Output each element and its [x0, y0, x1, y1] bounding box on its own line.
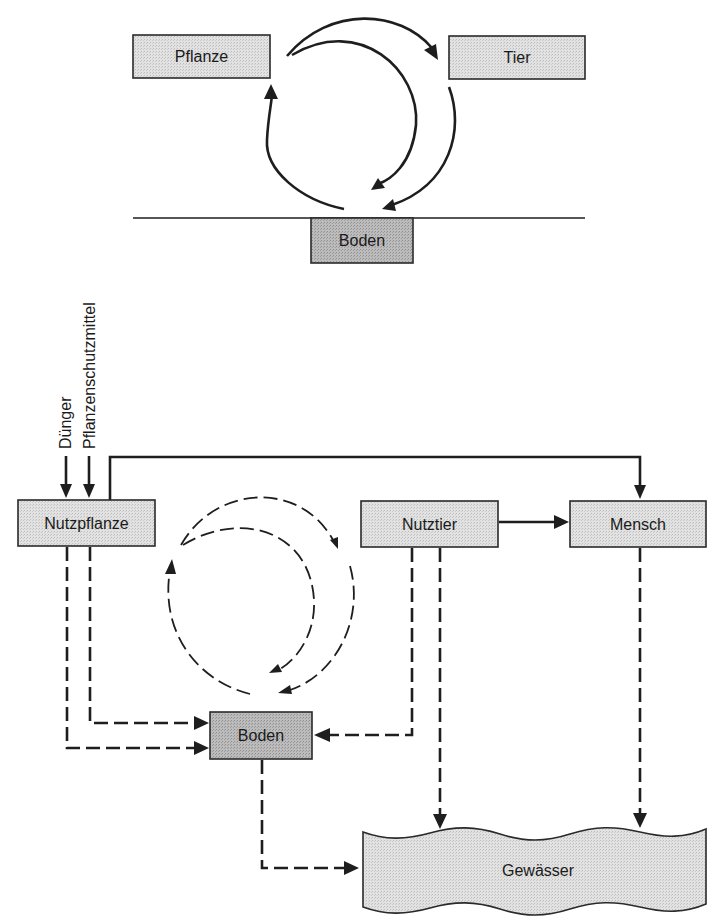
- arrow-soil-to-plant: [267, 94, 344, 209]
- water-label: Gewässer: [502, 862, 575, 879]
- dashed-arrow-soil-to-water: [262, 760, 346, 868]
- dashed-arrow-soil-to-crop: [168, 570, 250, 694]
- arrowhead-icon: [433, 814, 447, 829]
- top-cycle: Pflanze Tier Boden: [133, 19, 585, 263]
- dashed-arrow-crop-to-soil: [183, 528, 314, 670]
- arrowhead-icon: [330, 537, 338, 549]
- arrow-plant-to-animal: [287, 19, 432, 56]
- arrowhead-icon: [194, 716, 209, 730]
- arrowhead-icon: [554, 515, 569, 529]
- fertilizer-label: Dünger: [57, 396, 74, 449]
- dashed-arrow-crop-to-soil-1: [90, 547, 196, 723]
- arrowhead-icon: [382, 199, 396, 211]
- arrowhead-icon: [194, 741, 209, 755]
- arrowhead-icon: [278, 685, 292, 694]
- arrowhead-icon: [264, 84, 278, 99]
- arrowhead-icon: [634, 485, 646, 499]
- dashed-arrow-crop-to-livestock: [181, 497, 333, 545]
- dashed-arrow-crop-to-soil-2: [67, 547, 196, 748]
- soil-label: Boden: [339, 232, 385, 249]
- human-label: Mensch: [610, 516, 666, 533]
- arrow-animal-to-soil: [392, 87, 455, 205]
- arrowhead-icon: [269, 664, 282, 673]
- dashed-arrow-livestock-to-soil-direct: [328, 548, 412, 735]
- pesticide-label: Pflanzenschutzmittel: [81, 302, 98, 449]
- crop-label: Nutzpflanze: [44, 515, 129, 532]
- arrow-crop-to-human: [110, 457, 640, 500]
- arrowhead-icon: [344, 861, 359, 875]
- arrowhead-icon: [83, 484, 95, 498]
- plant-label: Pflanze: [175, 48, 228, 65]
- arrowhead-icon: [314, 728, 330, 742]
- arrowhead-icon: [633, 813, 647, 828]
- arrowhead-icon: [165, 559, 176, 574]
- arrowhead-icon: [60, 484, 72, 498]
- livestock-label: Nutztier: [402, 516, 458, 533]
- soil-label-lower: Boden: [238, 727, 284, 744]
- arrowhead-icon: [371, 178, 385, 190]
- arrow-plant-to-soil: [292, 41, 416, 184]
- animal-label: Tier: [504, 49, 532, 66]
- dashed-arrow-livestock-to-soil: [290, 566, 354, 690]
- bottom-system: Dünger Pflanzenschutzmittel Nutzpflanze …: [18, 302, 706, 915]
- nutrient-cycle-diagram: Pflanze Tier Boden Dünger Pflanzenschutz…: [0, 0, 720, 924]
